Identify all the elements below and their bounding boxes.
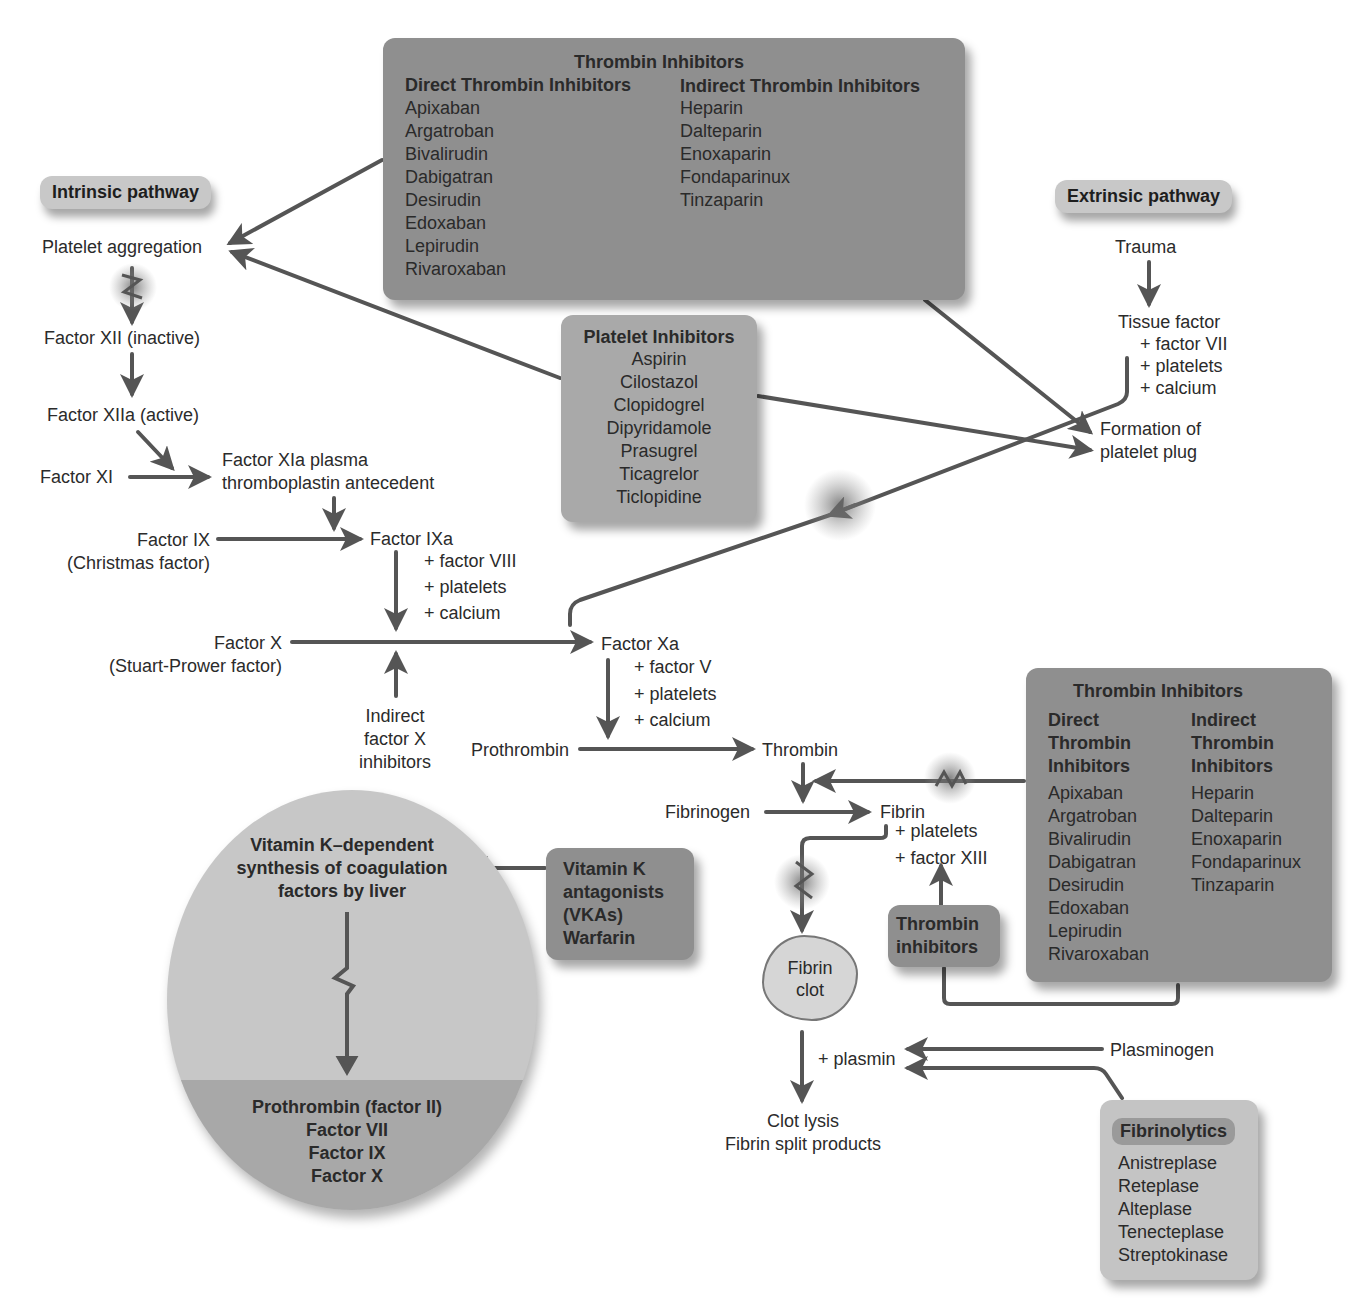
indirect-header: Indirect Thrombin Inhibitors [680, 76, 920, 97]
indirect-x-inhibitors-2: factor X [340, 728, 450, 751]
box-title: Thrombin Inhibitors [383, 52, 935, 73]
factor-x-alias: (Stuart-Prower factor) [60, 655, 282, 678]
drug: Dipyridamole [561, 417, 757, 440]
drug: Lepirudin [405, 235, 506, 258]
trauma: Trauma [1115, 236, 1176, 259]
indirect-list: Heparin Dalteparin Enoxaparin Fondaparin… [680, 97, 790, 212]
xa-cofactor-1: + factor V [634, 656, 712, 679]
fibrin-clot-label-2: clot [764, 979, 856, 1001]
platelet-inhibitors-box: Platelet Inhibitors Aspirin Cilostazol C… [561, 315, 757, 522]
direct-list: Apixaban Argatroban Bivalirudin Dabigatr… [1048, 782, 1149, 966]
drug: Rivaroxaban [1048, 943, 1149, 966]
drug: Enoxaparin [1191, 828, 1301, 851]
drug: Fondaparinux [1191, 851, 1301, 874]
drug: Tinzaparin [1191, 874, 1301, 897]
drug: Apixaban [405, 97, 506, 120]
drug: Alteplase [1118, 1198, 1228, 1221]
line: Vitamin K [563, 858, 664, 881]
drug: Bivalirudin [1048, 828, 1149, 851]
line: Warfarin [563, 927, 664, 950]
clot-lysis-2: Fibrin split products [700, 1133, 906, 1156]
drug: Bivalirudin [405, 143, 506, 166]
factor-xa: Factor Xa [601, 633, 679, 656]
ixa-cofactor-2: + platelets [424, 576, 507, 599]
line: Factor X [167, 1165, 527, 1188]
drug: Dalteparin [680, 120, 790, 143]
header-line: Direct [1048, 709, 1131, 732]
header-line: Inhibitors [1191, 755, 1274, 778]
vka-box: Vitamin K antagonists (VKAs) Warfarin [546, 848, 694, 960]
platelet-inhibitor-list: Aspirin Cilostazol Clopidogrel Dipyridam… [561, 348, 757, 509]
liver-synthesis-oval: Vitamin K–dependent synthesis of coagula… [167, 790, 537, 1210]
drug: Cilostazol [561, 371, 757, 394]
plasminogen: Plasminogen [1110, 1039, 1214, 1062]
drug: Anistreplase [1118, 1152, 1228, 1175]
drug: Aspirin [561, 348, 757, 371]
factor-ix: Factor IX [60, 529, 210, 552]
indirect-x-inhibitors-3: inhibitors [340, 751, 450, 774]
fibrinolytics-list: Anistreplase Reteplase Alteplase Tenecte… [1118, 1152, 1228, 1267]
indirect-list: Heparin Dalteparin Enoxaparin Fondaparin… [1191, 782, 1301, 897]
indirect-x-inhibitors-1: Indirect [340, 705, 450, 728]
drug: Dabigatran [1048, 851, 1149, 874]
line: Factor IX [167, 1142, 527, 1165]
line: Prothrombin (factor II) [167, 1096, 527, 1119]
drug: Edoxaban [1048, 897, 1149, 920]
tf-cofactor-1: + factor VII [1140, 333, 1228, 356]
fibrinolytics-box: Fibrinolytics Anistreplase Reteplase Alt… [1100, 1100, 1258, 1280]
drug: Streptokinase [1118, 1244, 1228, 1267]
header-line: Indirect [1191, 709, 1274, 732]
header-line: Inhibitors [1048, 755, 1131, 778]
drug: Ticlopidine [561, 486, 757, 509]
drug: Heparin [680, 97, 790, 120]
direct-header: Direct Thrombin Inhibitors [1048, 709, 1131, 778]
direct-list: Apixaban Argatroban Bivalirudin Dabigatr… [405, 97, 506, 281]
drug: Lepirudin [1048, 920, 1149, 943]
line: Factor VII [167, 1119, 527, 1142]
line: inhibitors [896, 936, 979, 959]
liver-bottom-text: Prothrombin (factor II) Factor VII Facto… [167, 1096, 527, 1188]
box-title: Thrombin Inhibitors [1073, 681, 1243, 702]
fibrinolytics-title: Fibrinolytics [1112, 1118, 1235, 1145]
thrombin: Thrombin [762, 739, 838, 762]
factor-xiia: Factor XIIa (active) [47, 404, 199, 427]
xa-cofactor-2: + platelets [634, 683, 717, 706]
header-line: Thrombin [1191, 732, 1274, 755]
line: (VKAs) [563, 904, 664, 927]
drug: Dabigatran [405, 166, 506, 189]
drug: Tenecteplase [1118, 1221, 1228, 1244]
xa-cofactor-3: + calcium [634, 709, 711, 732]
drug: Dalteparin [1191, 805, 1301, 828]
thrombin-inhibitors-small-box: Thrombin inhibitors [888, 905, 1000, 967]
drug: Fondaparinux [680, 166, 790, 189]
ixa-cofactor-3: + calcium [424, 602, 501, 625]
fibrin-clot-label-1: Fibrin [764, 957, 856, 979]
platelet-plug-line1: Formation of [1100, 418, 1201, 441]
drug: Reteplase [1118, 1175, 1228, 1198]
drug: Clopidogrel [561, 394, 757, 417]
box-text: Vitamin K antagonists (VKAs) Warfarin [563, 858, 664, 950]
drug: Argatroban [1048, 805, 1149, 828]
factor-x: Factor X [80, 632, 282, 655]
direct-header: Direct Thrombin Inhibitors [405, 75, 631, 96]
header-line: Thrombin [1048, 732, 1131, 755]
factor-xi: Factor XI [40, 466, 113, 489]
drug: Apixaban [1048, 782, 1149, 805]
factor-xia-line2: thromboplastin antecedent [222, 472, 434, 495]
fibrin-cofactor-1: + platelets [895, 820, 978, 843]
factor-ixa: Factor IXa [370, 528, 453, 551]
drug: Edoxaban [405, 212, 506, 235]
extrinsic-pathway-label: Extrinsic pathway [1055, 180, 1232, 213]
prothrombin: Prothrombin [471, 739, 569, 762]
clot-lysis-1: Clot lysis [700, 1110, 906, 1133]
drug: Desirudin [405, 189, 506, 212]
drug: Argatroban [405, 120, 506, 143]
line: antagonists [563, 881, 664, 904]
box-text: Thrombin inhibitors [896, 913, 979, 959]
drug: Enoxaparin [680, 143, 790, 166]
box-title: Platelet Inhibitors [561, 327, 757, 348]
tf-cofactor-2: + platelets [1140, 355, 1223, 378]
line: Thrombin [896, 913, 979, 936]
drug: Ticagrelor [561, 463, 757, 486]
drug: Desirudin [1048, 874, 1149, 897]
